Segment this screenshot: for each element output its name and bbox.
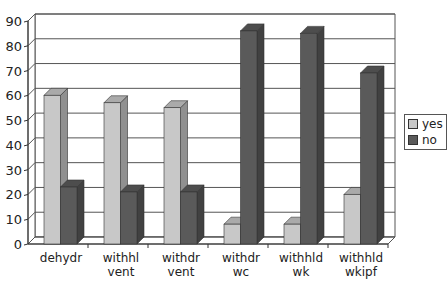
y-tick-label: 10 [5, 212, 22, 227]
bar-chart: 0102030405060708090 dehydrwithhlventwith… [0, 0, 448, 281]
x-axis-labels: dehydrwithhlventwithdrventwithdrwcwithhl… [40, 251, 383, 279]
y-tick-label: 90 [5, 14, 22, 29]
x-category-label: wc [233, 265, 249, 279]
legend: yes no [404, 114, 447, 150]
legend-label-no: no [422, 133, 437, 147]
x-category-label: withdr [222, 251, 260, 265]
y-axis: 0102030405060708090 [5, 14, 28, 252]
bar-no-5 [361, 66, 385, 244]
x-category-label: wk [293, 265, 310, 279]
y-tick-label: 70 [5, 64, 22, 79]
x-axis [28, 244, 388, 248]
x-category-label: withhld [339, 251, 383, 265]
x-category-label: withhl [103, 251, 139, 265]
legend-swatch-no [408, 135, 418, 145]
bar-no-3 [241, 24, 265, 244]
bar-no-2 [181, 185, 205, 244]
x-category-label: dehydr [40, 251, 82, 265]
y-tick-label: 40 [5, 138, 22, 153]
y-tick-label: 50 [5, 113, 22, 128]
legend-item-no: no [405, 132, 446, 147]
x-category-label: vent [108, 265, 135, 279]
y-tick-label: 30 [5, 163, 22, 178]
y-tick-label: 0 [14, 237, 22, 252]
bar-no-1 [121, 185, 145, 244]
legend-swatch-yes [408, 119, 418, 129]
x-category-label: withdr [162, 251, 200, 265]
y-tick-label: 60 [5, 88, 22, 103]
y-tick-label: 20 [5, 187, 22, 202]
legend-item-yes: yes [405, 116, 446, 131]
bar-no-0 [61, 180, 85, 244]
bar-no-4 [301, 26, 325, 244]
y-tick-label: 80 [5, 39, 22, 54]
legend-label-yes: yes [422, 117, 443, 131]
x-category-label: wkipf [345, 265, 378, 279]
x-category-label: vent [168, 265, 195, 279]
x-category-label: withhld [279, 251, 323, 265]
